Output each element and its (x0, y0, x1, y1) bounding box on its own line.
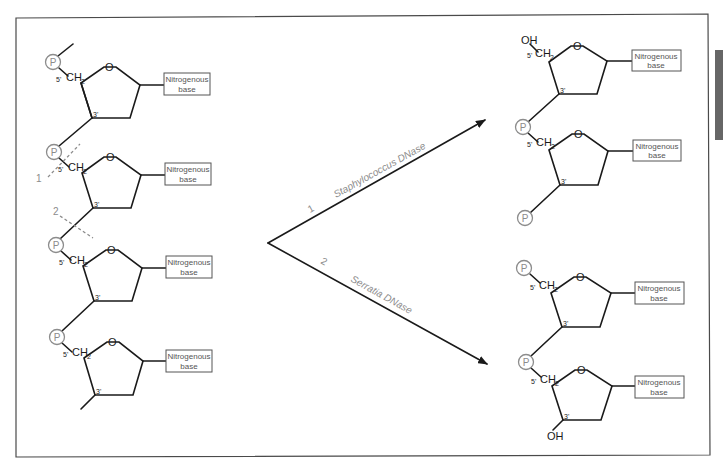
cut-site-2: 2 (53, 206, 93, 238)
svg-text:CH: CH (535, 47, 551, 59)
phosphate-label: P (50, 57, 57, 68)
svg-text:O: O (107, 244, 116, 256)
svg-text:5': 5' (63, 351, 68, 358)
serratia-product: P O 5' CH 2 3' Nitrogenous base P O 5' C… (517, 261, 685, 443)
svg-text:O: O (574, 128, 583, 140)
svg-text:2: 2 (550, 54, 554, 61)
svg-text:base: base (180, 362, 198, 371)
svg-text:3': 3' (95, 294, 100, 301)
svg-text:3': 3' (563, 320, 568, 327)
svg-text:base: base (647, 61, 665, 70)
side-tab (715, 50, 723, 140)
arrow-pathway-2 (268, 243, 487, 364)
svg-text:Nitrogenous: Nitrogenous (165, 75, 208, 84)
cut-site-2-label: 2 (53, 206, 59, 217)
svg-text:base: base (180, 268, 198, 277)
svg-text:CH: CH (540, 373, 556, 385)
svg-text:2: 2 (551, 143, 555, 150)
pathway-2-number: 2 (319, 255, 330, 268)
svg-text:P: P (522, 213, 529, 224)
svg-text:2: 2 (83, 168, 87, 175)
svg-text:P: P (521, 263, 528, 274)
svg-text:5': 5' (59, 259, 64, 266)
ring-oxygen-label: O (105, 61, 114, 73)
svg-text:Nitrogenous: Nitrogenous (166, 165, 209, 174)
pathway-1-enzyme-label: Staphylococcus DNase (332, 140, 428, 200)
svg-text:3': 3' (94, 201, 99, 208)
svg-text:P: P (53, 240, 60, 251)
svg-text:P: P (523, 357, 530, 368)
nucleotide-left-2: P O 5' CH 2 3' Nitrogenous base (47, 145, 212, 240)
reaction-arrows: 1 Staphylococcus DNase 2 Serratia DNase (268, 120, 487, 364)
dnase-cleavage-diagram: P O 5' CH 2 3' Nitrogenous base P O 5' C… (0, 0, 723, 467)
pathway-1-number: 1 (306, 202, 317, 215)
svg-text:base: base (179, 175, 197, 184)
hydroxyl-label: OH (547, 430, 564, 442)
svg-text:base: base (650, 294, 668, 303)
nucleotide-right-bottom-1: P O 5' CH 2 3' Nitrogenous base (517, 261, 685, 357)
three-prime-label: 3' (93, 111, 98, 118)
svg-text:Nitrogenous: Nitrogenous (167, 258, 210, 267)
svg-text:5': 5' (531, 378, 536, 385)
svg-text:Nitrogenous: Nitrogenous (637, 378, 680, 387)
figure-frame (16, 14, 710, 457)
svg-text:Nitrogenous: Nitrogenous (634, 52, 677, 61)
nucleotide-left-1: P O 5' CH 2 3' Nitrogenous base (46, 44, 211, 146)
svg-text:P: P (51, 147, 58, 158)
five-prime-label: 5' (56, 76, 61, 83)
svg-text:5': 5' (527, 141, 532, 148)
nucleotide-right-top-1: OH O 5' CH 2 3' Nitrogenous base (521, 34, 681, 122)
svg-text:P: P (54, 332, 61, 343)
svg-text:O: O (577, 364, 586, 376)
staphylococcus-product: OH O 5' CH 2 3' Nitrogenous base P O 5' … (516, 34, 682, 226)
svg-text:CH: CH (72, 346, 88, 358)
svg-text:CH: CH (539, 279, 555, 291)
svg-text:2: 2 (81, 78, 85, 85)
svg-text:CH: CH (536, 136, 552, 148)
nucleotide-right-bottom-2: P O 5' CH 2 3' OH Nitrogenous base (519, 355, 685, 443)
svg-text:O: O (108, 336, 117, 348)
svg-text:2: 2 (84, 261, 88, 268)
nucleotide-left-4: P O 5' CH 2 3' Nitrogenous base (50, 330, 213, 410)
nucleotide-right-top-2: P O 5' CH 2 3' Nitrogenous base P (516, 120, 682, 226)
svg-text:5': 5' (58, 166, 63, 173)
hydroxyl-label: OH (521, 34, 538, 46)
svg-text:3': 3' (96, 388, 101, 395)
svg-text:O: O (573, 40, 582, 52)
svg-text:Nitrogenous: Nitrogenous (167, 352, 210, 361)
nucleotide-left-3: P O 5' CH 2 3' Nitrogenous base (49, 238, 213, 332)
arrow-pathway-1 (268, 120, 485, 243)
svg-text:base: base (648, 151, 666, 160)
intact-dna-strand: P O 5' CH 2 3' Nitrogenous base P O 5' C… (36, 44, 212, 409)
svg-text:3': 3' (564, 413, 569, 420)
svg-text:O: O (106, 151, 115, 163)
svg-text:CH: CH (69, 254, 85, 266)
svg-text:3': 3' (561, 178, 566, 185)
svg-text:2: 2 (555, 380, 559, 387)
svg-text:Nitrogenous: Nitrogenous (635, 142, 678, 151)
svg-text:base: base (178, 85, 196, 94)
svg-text:5': 5' (530, 284, 535, 291)
cut-site-1-label: 1 (36, 173, 42, 184)
pathway-2-enzyme-label: Serratia DNase (349, 273, 415, 316)
svg-text:O: O (576, 271, 585, 283)
svg-text:2: 2 (554, 286, 558, 293)
svg-text:CH: CH (68, 161, 84, 173)
svg-text:5': 5' (527, 52, 532, 59)
svg-text:Nitrogenous: Nitrogenous (637, 284, 680, 293)
svg-text:3': 3' (560, 87, 565, 94)
ch2-label: CH (66, 71, 82, 83)
svg-text:2: 2 (87, 353, 91, 360)
svg-text:base: base (650, 388, 668, 397)
svg-text:P: P (520, 122, 527, 133)
